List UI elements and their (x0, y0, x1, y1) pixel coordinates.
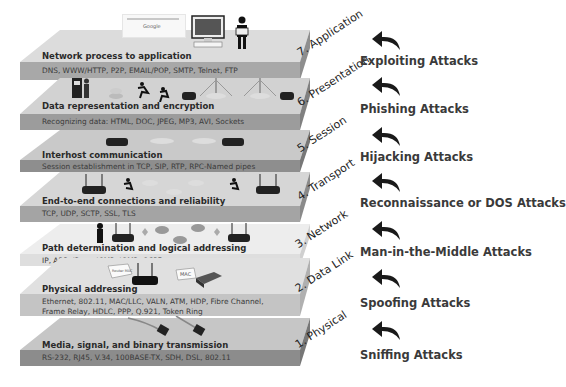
layer-title: End-to-end connections and reliability (42, 196, 225, 206)
svg-text:Router MAC: Router MAC (112, 269, 133, 273)
attack-label: Reconnaissance or DOS Attacks (360, 196, 566, 210)
layer-protocols: DNS, WWW/HTTP, P2P, EMAIL/POP, SMTP, Tel… (42, 66, 238, 76)
desktop-computer-icon (190, 14, 228, 50)
attack-label: Spoofing Attacks (360, 296, 470, 310)
attack-label: Man-in-the-Middle Attacks (360, 245, 532, 259)
attack-label: Hijacking Attacks (360, 150, 473, 164)
attack-hijacking: Hijacking Attacks (360, 124, 538, 164)
layer-protocols: TCP, UDP, SCTP, SSL, TLS (42, 209, 136, 219)
ethernet-cable-icon (126, 316, 216, 340)
curved-arrow-icon (370, 266, 404, 290)
curved-arrow-icon (370, 74, 404, 98)
router-network-chain-icon (180, 76, 295, 102)
layer-title: Network process to application (42, 51, 192, 61)
curved-arrow-icon (370, 318, 404, 342)
google-search-icon: Google (122, 14, 186, 38)
attack-spoofing: Spoofing Attacks (360, 266, 538, 306)
session-routers-icon (100, 130, 280, 148)
curved-arrow-icon (370, 28, 404, 52)
layer-protocols: Session establishment in TCP, SIP, RTP, … (42, 162, 255, 172)
atm-machine-icon (70, 76, 92, 98)
router-mac-tag-icon: Router MAC (106, 262, 164, 288)
layer-protocols: RS-232, RJ45, V.34, 100BASE-TX, SDH, DSL… (42, 353, 231, 363)
layer-protocols-line: Ethernet, 802.11, MAC/LLC, VALN, ATM, HD… (42, 297, 264, 307)
attack-exploiting: Exploiting Attacks (360, 28, 538, 68)
layer-protocols: Recognizing data: HTML, DOC, JPEG, MP3, … (42, 117, 244, 127)
attack-reconnaissance-dos: Reconnaissance or DOS Attacks (360, 170, 538, 210)
curved-arrow-icon (370, 170, 404, 194)
layer-title: Data representation and encryption (42, 101, 214, 111)
layer-title: Interhost communication (42, 150, 162, 160)
curved-arrow-icon (370, 124, 404, 148)
svg-text:MAC: MAC (180, 271, 192, 277)
attack-phishing: Phishing Attacks (360, 74, 538, 114)
attack-label: Phishing Attacks (360, 102, 469, 116)
network-routers-icon (90, 220, 260, 246)
mac-switch-icon: MAC (174, 266, 224, 288)
user-person-icon (234, 16, 250, 50)
layer-protocols: Ethernet, 802.11, MAC/LLC, VALN, ATM, HD… (42, 297, 264, 317)
transport-routers-icon (78, 172, 288, 196)
phishing-hacker-icon (108, 80, 178, 102)
attack-label: Exploiting Attacks (360, 54, 478, 68)
layer-title: Media, signal, and binary transmission (42, 340, 228, 350)
attack-man-in-the-middle: Man-in-the-Middle Attacks (360, 218, 538, 258)
curved-arrow-icon (370, 218, 404, 242)
attack-sniffing: Sniffing Attacks (360, 318, 538, 358)
attack-label: Sniffing Attacks (360, 348, 463, 362)
